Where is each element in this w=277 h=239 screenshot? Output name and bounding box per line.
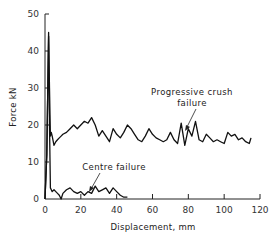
force-displacement-chart: 01020304050 020406080100120 Force kN Dis… xyxy=(0,0,277,239)
x-tick-label: 80 xyxy=(183,205,195,215)
y-tick-label: 40 xyxy=(28,46,40,56)
y-tick-label: 20 xyxy=(28,120,40,130)
data-series xyxy=(45,33,251,200)
x-tick-label: 0 xyxy=(42,205,48,215)
x-tick-label: 120 xyxy=(251,205,268,215)
x-tick-label: 100 xyxy=(216,205,233,215)
y-tick-label: 50 xyxy=(28,9,40,19)
x-tick-label: 20 xyxy=(75,205,87,215)
series-progressive-crush xyxy=(45,33,251,200)
y-tick-label: 30 xyxy=(28,83,40,93)
x-ticks: 020406080100120 xyxy=(42,194,269,215)
series-centre-failure xyxy=(45,36,127,199)
y-axis-label: Force kN xyxy=(8,87,18,126)
annotation-progressive-crush-line2: failure xyxy=(177,98,207,108)
y-tick-label: 0 xyxy=(33,194,39,204)
x-tick-label: 60 xyxy=(147,205,159,215)
axes xyxy=(45,14,260,199)
y-tick-label: 10 xyxy=(28,157,40,167)
annotation-centre-failure: Centre failure xyxy=(82,162,146,172)
x-axis-label: Displacement, mm xyxy=(110,222,195,232)
x-tick-label: 40 xyxy=(111,205,123,215)
annotation-progressive-crush: Progressive crush xyxy=(151,87,233,97)
